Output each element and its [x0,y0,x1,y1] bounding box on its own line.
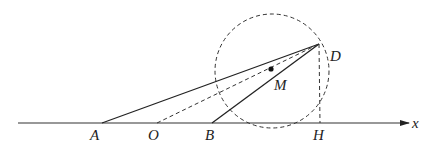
label-M: M [273,77,288,93]
x-axis-label: x [411,115,419,131]
point-M-dot [268,66,273,71]
label-O: O [148,127,159,143]
label-A: A [89,127,100,143]
segment-OD-dashed [157,44,319,123]
segment-DH-dashed [319,44,320,123]
segment-BD [212,44,319,123]
geometry-diagram: x A O B H D M [0,0,426,146]
label-H: H [312,127,325,143]
label-B: B [205,127,214,143]
label-D: D [329,48,341,64]
